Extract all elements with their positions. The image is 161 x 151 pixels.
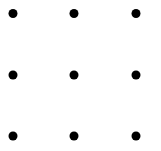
data-point-row3-col2: [70, 132, 79, 141]
data-point-row2-col3: [132, 71, 141, 80]
dot-grid-canvas: [0, 0, 161, 151]
dot-grid-plot-area: [0, 0, 161, 151]
data-point-row3-col1: [9, 132, 18, 141]
data-point-row3-col3: [132, 132, 141, 141]
data-point-row1-col2: [70, 9, 79, 18]
data-point-row1-col1: [9, 9, 18, 18]
data-point-row1-col3: [132, 9, 141, 18]
data-point-row2-col1: [9, 71, 18, 80]
data-point-row2-col2: [70, 71, 79, 80]
